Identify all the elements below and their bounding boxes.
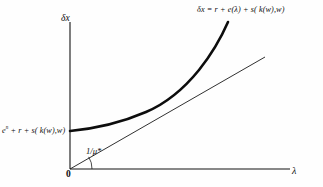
figure-container: δx = r + e(λ) + s( k(w),w) δx λ en + r +…: [0, 0, 323, 187]
plot-canvas: [0, 0, 323, 187]
intercept-label-rest: + r + s( k(w),w): [8, 126, 65, 135]
intercept-label: en + r + s( k(w),w): [2, 125, 65, 135]
origin-label: 0: [66, 170, 71, 180]
angle-arc: [89, 157, 92, 169]
x-axis-label: λ: [292, 166, 296, 176]
curve-equation-label: δx = r + e(λ) + s( k(w),w): [197, 6, 284, 14]
slope-label: 1/μ*: [86, 147, 101, 156]
y-axis-label: δx: [61, 14, 70, 24]
convex-curve: [70, 22, 228, 131]
